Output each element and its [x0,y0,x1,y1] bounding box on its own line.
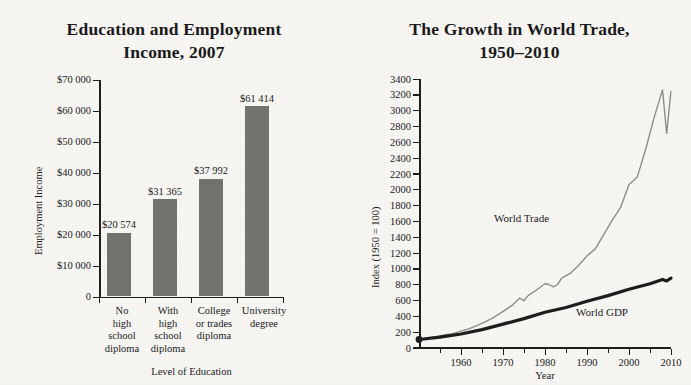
bar-y-tick [93,204,99,205]
line-x-tick-label: 1960 [441,357,481,368]
bar-y-tick-label: $50 000 [33,136,91,147]
line-y-tick-label: 1200 [379,248,411,259]
line-y-tick-label: 1600 [379,216,411,227]
bar-y-tick [93,142,99,143]
cat-line: University [236,305,292,318]
cat-line: diploma [188,330,240,343]
line-y-tick [413,332,419,333]
line-y-tick-label: 800 [379,279,411,290]
line-y-axis-title: Index (1950 = 100) [370,207,381,288]
line-y-tick [413,126,419,127]
line-y-tick-label: 2800 [379,121,411,132]
bar-y-axis-title: Employment Income [33,167,44,255]
line-y-tick [413,94,419,95]
bar-value-label: $37 992 [179,165,243,176]
line-y-tick-label: 2400 [379,153,411,164]
bar-y-tick-label: $10 000 [33,260,91,271]
bar-no-high-school-diploma[interactable] [107,233,131,297]
line-y-tick-label: 1800 [379,200,411,211]
line-x-tick-minor [482,349,483,353]
line-x-axis-title: Year [419,370,671,381]
line-x-tick-major [587,349,588,355]
line-y-tick-label: 0 [379,343,411,354]
bar-category-label-with-high-school-diploma: With high school diploma [144,305,192,355]
bar-x-tick [237,297,238,303]
bar-chart-figure: Education and Employment Income, 2007 0 … [0,0,348,385]
bar-y-tick [93,173,99,174]
line-x-tick-label: 2010 [651,357,691,368]
line-x-tick-minor [524,349,525,353]
line-x-tick-label: 2000 [609,357,649,368]
bar-college-or-trades-diploma[interactable] [199,179,223,297]
line-y-tick-label: 3000 [379,105,411,116]
line-y-tick [413,316,419,317]
bar-x-tick [99,297,100,303]
bar-y-tick-label: 0 [33,291,91,302]
bar-y-tick-label: $60 000 [33,105,91,116]
line-x-tick-major [545,349,546,355]
bar-category-label-university-degree: University degree [236,305,292,330]
line-y-tick-label: 3400 [379,74,411,85]
line-x-tick-label: 1990 [567,357,607,368]
line-y-tick [413,189,419,190]
line-x-tick-minor [608,349,609,353]
line-y-tick-label: 200 [379,327,411,338]
line-y-tick-label: 2600 [379,137,411,148]
bar-plot-area: 0 $10 000 $20 000 $30 000 $40 000 $50 00… [0,0,348,385]
line-y-tick [413,237,419,238]
bar-category-label-college-or-trades-diploma: College or trades diploma [188,305,240,343]
series-label-world-trade: World Trade [494,212,549,224]
line-x-tick-label: 1970 [483,357,523,368]
line-x-tick-minor [440,349,441,353]
line-x-tick-minor [566,349,567,353]
bar-y-tick [93,80,99,81]
line-y-tick [413,221,419,222]
series-label-world-gdp: World GDP [576,306,628,318]
bar-x-tick [191,297,192,303]
line-y-tick-label: 3200 [379,89,411,100]
bar-y-tick [93,235,99,236]
cat-line: high [98,318,146,331]
cat-line: College [188,305,240,318]
bar-y-axis [99,80,101,298]
cat-line: school [98,330,146,343]
line-y-tick [413,173,419,174]
line-y-tick [413,253,419,254]
line-y-tick [413,205,419,206]
line-y-tick-label: 1400 [379,232,411,243]
line-y-tick [413,284,419,285]
bar-x-tick [145,297,146,303]
bar-with-high-school-diploma[interactable] [153,199,177,296]
line-y-tick-label: 2000 [379,184,411,195]
bar-y-tick [93,111,99,112]
cat-line: degree [236,318,292,331]
line-y-tick [413,110,419,111]
line-y-tick [413,300,419,301]
line-y-tick-label: 600 [379,295,411,306]
bar-y-tick-label: $70 000 [33,74,91,85]
cat-line: school [144,330,192,343]
bar-university-degree[interactable] [245,106,269,296]
bar-y-tick [93,266,99,267]
cat-line: diploma [144,343,192,356]
line-y-tick-label: 1000 [379,263,411,274]
line-x-tick-label: 1980 [525,357,565,368]
line-y-tick [413,79,419,80]
line-y-tick-label: 400 [379,311,411,322]
bar-x-axis-title: Level of Education [99,366,284,377]
line-y-axis [419,79,421,349]
bar-value-label: $31 365 [133,186,197,197]
series-world-gdp [419,278,671,339]
line-x-tick-major [629,349,630,355]
line-x-tick-major [461,349,462,355]
line-plot-area: 0 200 400 600 800 1000 1200 1400 1600 18… [348,0,691,385]
line-y-tick [413,158,419,159]
bar-category-label-no-high-school-diploma: No high school diploma [98,305,146,355]
bar-value-label: $61 414 [225,93,289,104]
line-y-tick-label: 2200 [379,169,411,180]
cat-line: No [98,305,146,318]
line-y-tick [413,142,419,143]
line-x-tick-major [671,349,672,355]
line-y-tick [413,347,419,348]
line-chart-figure: The Growth in World Trade, 1950–2010 [348,0,691,385]
